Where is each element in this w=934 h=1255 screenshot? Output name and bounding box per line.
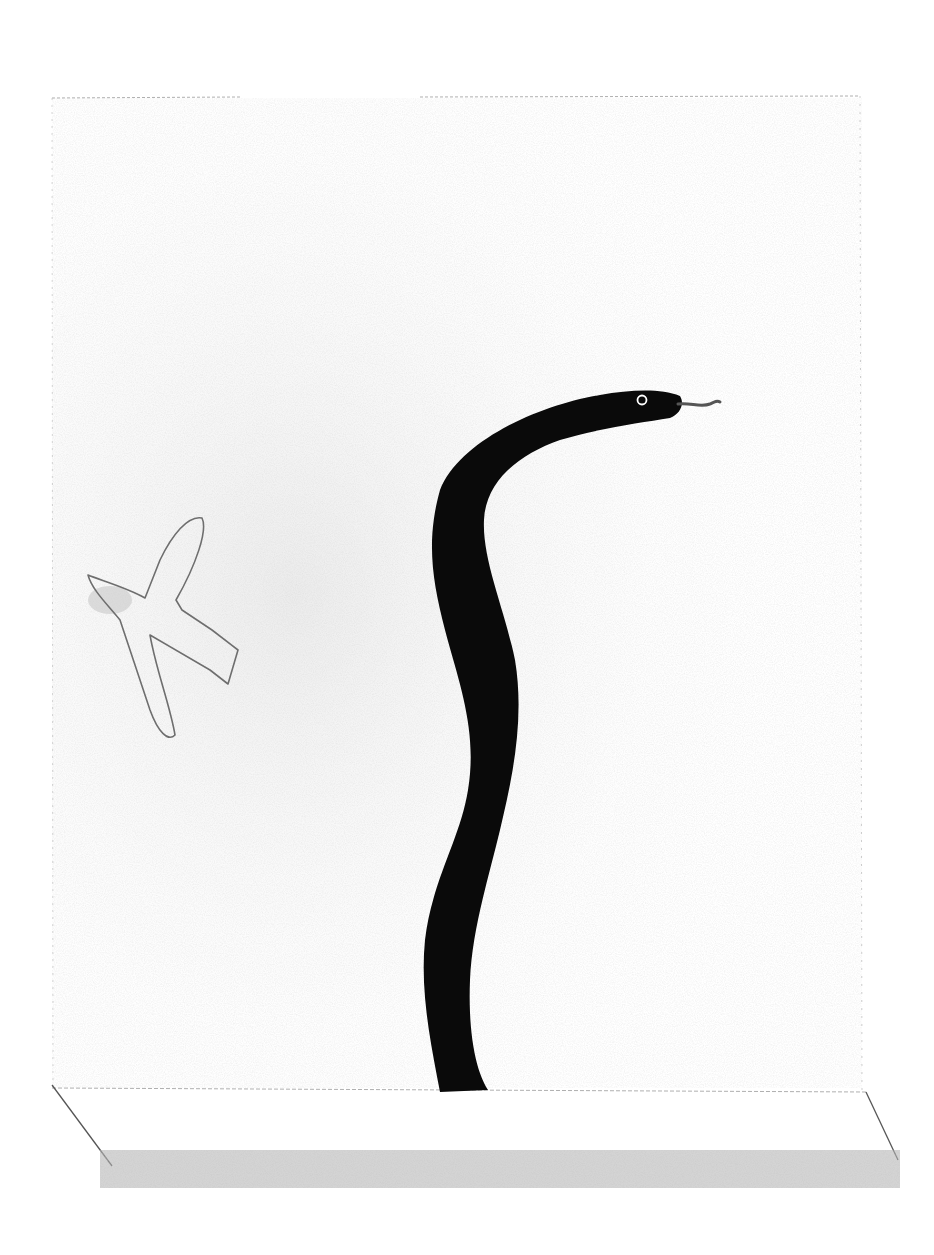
base-box: [52, 1085, 900, 1188]
drawing: [0, 0, 934, 1255]
